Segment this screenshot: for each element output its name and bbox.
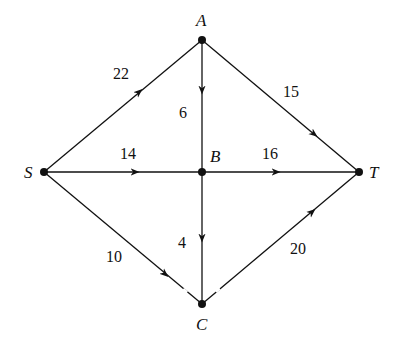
weight-S-B: 14 (120, 145, 136, 162)
arrow-C-T-icon (300, 212, 312, 222)
edge-C-T (202, 172, 359, 304)
arrow-S-A-icon (112, 92, 139, 115)
weight-A-T: 15 (283, 83, 299, 100)
weight-C-T: 20 (290, 240, 306, 257)
edge-A-T (202, 40, 359, 172)
node-label-C: C (196, 315, 208, 334)
arrow-A-T-icon (300, 123, 314, 134)
node-label-T: T (369, 163, 380, 182)
node-T (355, 168, 363, 176)
node-S (40, 168, 48, 176)
node-A (198, 36, 206, 44)
node-label-S: S (24, 163, 33, 182)
weight-B-C: 4 (178, 234, 186, 251)
node-C (198, 300, 206, 308)
node-label-A: A (195, 11, 207, 30)
node-label-B: B (210, 147, 221, 166)
network-diagram: g A B C S T 22 15 6 14 16 4 10 (0, 0, 397, 348)
weight-S-A: 22 (113, 65, 129, 82)
arrow-S-C-icon (152, 263, 165, 274)
weight-B-T: 16 (262, 145, 278, 162)
weight-S-C: 10 (106, 248, 122, 265)
node-B (198, 168, 206, 176)
weight-A-B: 6 (179, 104, 187, 121)
